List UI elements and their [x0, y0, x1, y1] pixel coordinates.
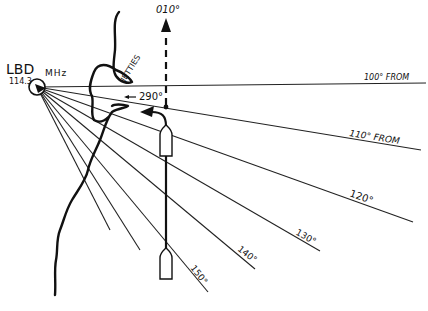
turn-heading-arrowhead-icon: [124, 95, 129, 99]
radial-110-label: 110° FROM: [349, 128, 401, 146]
station-frequency: 114.3: [9, 77, 32, 86]
radial-130-label: 130°: [294, 227, 318, 247]
radial-110: [37, 87, 421, 150]
station-id: LBD: [6, 61, 34, 77]
vor-station: LBD 114.3 MHz: [6, 61, 67, 95]
radial-100-label: 100° FROM: [364, 73, 409, 82]
radial-100: [37, 83, 426, 87]
intercept-point-icon: [164, 105, 169, 110]
coastline: [55, 12, 132, 295]
turn-heading-label: 290°: [139, 91, 163, 102]
turn-arrowhead-icon: [140, 106, 154, 117]
radial-lines: [37, 83, 426, 292]
turn-heading: 290°: [124, 91, 163, 102]
boat-lower-icon: [160, 248, 172, 279]
vor-radial-diagram: LBD 114.3 MHz JETTIES 290° 010° 100° FRO…: [0, 0, 428, 311]
boat-upper-icon: [160, 125, 172, 156]
north-heading-label: 010°: [156, 4, 180, 15]
radial-140-label: 140°: [236, 244, 259, 265]
north-arrowhead-icon: [161, 18, 171, 32]
radial-150-label: 150°: [188, 263, 209, 286]
station-unit: MHz: [45, 68, 67, 78]
